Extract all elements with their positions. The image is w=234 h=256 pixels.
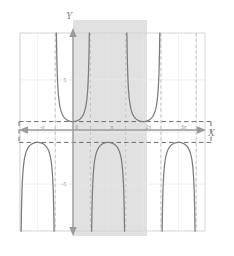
x-tick-label: 2π	[146, 124, 152, 130]
figure-canvas: -π0π2π3π 5-5 Y X	[0, 0, 234, 256]
x-tick-label: -π	[40, 124, 45, 130]
y-tick-label: -5	[62, 181, 67, 187]
x-tick-label: π	[111, 124, 114, 130]
y-tick-label: 5	[63, 77, 66, 83]
x-axis-title: X	[207, 126, 216, 138]
x-tick-label: 0	[75, 124, 78, 130]
x-tick-label: 3π	[181, 124, 187, 130]
y-axis-title: Y	[66, 9, 74, 21]
sec-function-plot: -π0π2π3π 5-5 Y X	[0, 0, 234, 256]
